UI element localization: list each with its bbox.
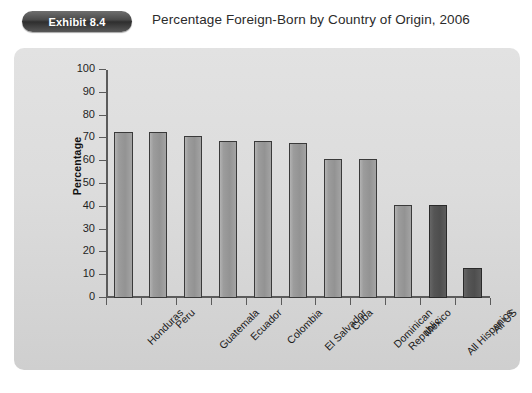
bar-peru <box>149 132 167 298</box>
y-axis-title: Percentage <box>71 137 83 196</box>
x-tick <box>141 298 142 305</box>
bar-dominican-republic <box>359 159 377 298</box>
exhibit-page: Exhibit 8.4 Percentage Foreign-Born by C… <box>0 0 532 393</box>
x-tick <box>315 298 316 305</box>
x-tick <box>385 298 386 305</box>
y-tick: 20 <box>99 251 106 252</box>
y-tick-label: 30 <box>83 221 95 236</box>
bar-ecuador <box>219 141 237 298</box>
bar-guatemala <box>184 136 202 298</box>
x-tick <box>420 298 421 305</box>
x-tick <box>455 298 456 305</box>
bar-colombia <box>254 141 272 298</box>
x-tick <box>106 298 107 305</box>
y-tick: 10 <box>99 274 106 275</box>
y-tick-label: 80 <box>83 107 95 122</box>
x-tick <box>211 298 212 305</box>
bar-el-salvador <box>289 143 307 298</box>
y-tick: 50 <box>99 183 106 184</box>
x-tick <box>246 298 247 305</box>
y-tick-label: 70 <box>83 129 95 144</box>
x-tick <box>281 298 282 305</box>
y-tick: 30 <box>99 229 106 230</box>
y-tick-label: 50 <box>83 175 95 190</box>
bar-honduras <box>114 132 132 298</box>
y-tick: 80 <box>99 115 106 116</box>
y-tick-label: 20 <box>83 243 95 258</box>
exhibit-number-badge: Exhibit 8.4 <box>22 11 132 32</box>
y-tick: 0 <box>99 297 106 298</box>
x-category-label: All US <box>490 307 519 336</box>
y-tick-label: 90 <box>83 84 95 99</box>
y-tick-label: 40 <box>83 198 95 213</box>
bar-all-us <box>463 268 481 298</box>
exhibit-title: Percentage Foreign-Born by Country of Or… <box>152 12 470 27</box>
x-category-label: Colombia <box>285 307 324 346</box>
y-tick: 100 <box>99 69 106 70</box>
y-tick: 60 <box>99 160 106 161</box>
y-tick: 70 <box>99 137 106 138</box>
exhibit-header: Exhibit 8.4 Percentage Foreign-Born by C… <box>0 0 532 46</box>
y-tick: 90 <box>99 92 106 93</box>
y-tick-label: 60 <box>83 152 95 167</box>
x-tick <box>176 298 177 305</box>
x-category-label-line: Cuba <box>349 306 375 332</box>
x-tick <box>350 298 351 305</box>
plot-area: 1009080706050403020100 HondurasPeruGuate… <box>106 70 490 298</box>
y-axis-line <box>106 70 108 298</box>
y-tick-label: 0 <box>89 289 95 304</box>
bar-cuba <box>324 159 342 298</box>
x-tick <box>490 298 491 305</box>
y-tick-label: 10 <box>83 266 95 281</box>
y-tick-label: 100 <box>77 61 95 76</box>
bar-mexico <box>394 205 412 298</box>
chart-panel: Percentage 1009080706050403020100 Hondur… <box>14 48 520 370</box>
x-category-label-line: Colombia <box>284 306 324 346</box>
y-tick: 40 <box>99 206 106 207</box>
x-category-label: Cuba <box>349 307 375 333</box>
bar-all-hispanics <box>429 205 447 298</box>
